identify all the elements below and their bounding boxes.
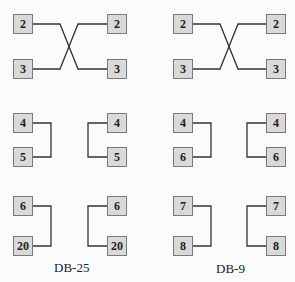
- db9-right-pin-7: 7: [266, 196, 286, 216]
- db25-right-pin-5: 5: [107, 147, 127, 167]
- db9-right-pin-8: 8: [266, 236, 286, 256]
- db25-caption: DB-25: [54, 260, 89, 276]
- db9-right-pin-2: 2: [266, 14, 286, 34]
- db25-right-pin-6: 6: [107, 196, 127, 216]
- db25-right-pin-4: 4: [107, 113, 127, 133]
- db25-right-pin-20: 20: [107, 236, 127, 256]
- db9-right-pin-6: 6: [266, 147, 286, 167]
- db9-left-pin-8: 8: [173, 236, 193, 256]
- db9-left-pin-3: 3: [173, 59, 193, 79]
- db9-left-pin-2: 2: [173, 14, 193, 34]
- db9-right-pin-4: 4: [266, 113, 286, 133]
- wiring-lines: [0, 0, 295, 282]
- db25-left-pin-5: 5: [13, 147, 33, 167]
- db9-left-pin-6: 6: [173, 147, 193, 167]
- db25-right-pin-2: 2: [107, 14, 127, 34]
- db9-right-pin-3: 3: [266, 59, 286, 79]
- db25-left-pin-20: 20: [13, 236, 33, 256]
- db9-left-pin-7: 7: [173, 196, 193, 216]
- db25-left-pin-2: 2: [13, 14, 33, 34]
- db25-left-pin-6: 6: [13, 196, 33, 216]
- db25-right-pin-3: 3: [107, 59, 127, 79]
- db9-left-pin-4: 4: [173, 113, 193, 133]
- db25-left-pin-3: 3: [13, 59, 33, 79]
- db25-left-pin-4: 4: [13, 113, 33, 133]
- db9-caption: DB-9: [216, 261, 245, 277]
